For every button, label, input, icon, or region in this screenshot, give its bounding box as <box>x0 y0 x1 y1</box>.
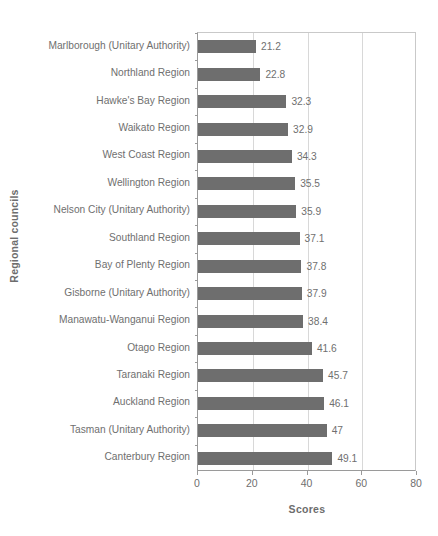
bar-value-label: 32.9 <box>293 123 313 136</box>
category-label: Auckland Region <box>113 396 190 408</box>
category-label: Otago Region <box>127 342 190 354</box>
bar-value-label: 34.3 <box>297 150 317 163</box>
y-axis-tick <box>195 60 198 61</box>
x-axis-tick-label: 60 <box>355 477 367 489</box>
category-label: Gisborne (Unitary Authority) <box>64 287 190 299</box>
category-label: Southland Region <box>109 232 190 244</box>
y-axis-tick <box>195 253 198 254</box>
category-label: Bay of Plenty Region <box>95 259 190 271</box>
plot-area: 21.222.832.332.934.335.535.937.137.837.9… <box>197 32 416 471</box>
category-label: Manawatu-Wanganui Region <box>59 314 190 326</box>
x-axis-tick <box>307 471 308 475</box>
x-axis-tick-label: 40 <box>301 477 313 489</box>
y-axis-tick <box>195 335 198 336</box>
bar[interactable] <box>198 123 288 136</box>
bar-value-label: 37.8 <box>306 260 326 273</box>
bar[interactable] <box>198 452 332 465</box>
category-label: Hawke's Bay Region <box>96 95 190 107</box>
bar[interactable] <box>198 260 301 273</box>
bar[interactable] <box>198 205 296 218</box>
bar-value-label: 32.3 <box>291 95 311 108</box>
category-label: Northland Region <box>111 67 190 79</box>
y-axis-tick <box>195 88 198 89</box>
bar[interactable] <box>198 369 323 382</box>
bar-value-label: 37.1 <box>305 232 325 245</box>
bar-value-label: 41.6 <box>317 342 337 355</box>
y-axis-tick <box>195 280 198 281</box>
category-label: Tasman (Unitary Authority) <box>70 424 190 436</box>
x-axis-ticks: 020406080 <box>197 471 417 477</box>
y-axis-tick <box>195 225 198 226</box>
category-label: Canterbury Region <box>104 451 190 463</box>
y-axis-tick <box>195 170 198 171</box>
gridline <box>362 33 363 470</box>
x-axis-title: Scores <box>197 503 417 515</box>
bar[interactable] <box>198 68 260 81</box>
bar[interactable] <box>198 40 256 53</box>
bar-value-label: 35.9 <box>301 205 321 218</box>
category-label: Marlborough (Unitary Authority) <box>48 40 190 52</box>
bar[interactable] <box>198 287 302 300</box>
category-label: Taranaki Region <box>116 369 190 381</box>
category-label: Wellington Region <box>108 177 191 189</box>
category-axis-labels: Marlborough (Unitary Authority)Northland… <box>28 32 194 471</box>
bar-value-label: 47 <box>332 424 343 437</box>
bar[interactable] <box>198 342 312 355</box>
category-label: Nelson City (Unitary Authority) <box>54 204 190 216</box>
x-axis-tick <box>361 471 362 475</box>
bar-chart: Regional councils Marlborough (Unitary A… <box>0 0 438 536</box>
bar[interactable] <box>198 397 324 410</box>
y-axis-tick <box>195 198 198 199</box>
y-axis-tick <box>195 417 198 418</box>
bar[interactable] <box>198 315 303 328</box>
bar-value-label: 37.9 <box>307 287 327 300</box>
category-label: West Coast Region <box>102 149 190 161</box>
x-axis-tick-label: 0 <box>194 477 200 489</box>
bar[interactable] <box>198 177 295 190</box>
y-axis-tick <box>195 307 198 308</box>
y-axis-tick <box>195 143 198 144</box>
x-axis-tick <box>416 471 417 475</box>
x-axis-tick <box>252 471 253 475</box>
bar[interactable] <box>198 232 300 245</box>
bar-value-label: 21.2 <box>261 40 281 53</box>
x-axis-tick-label: 20 <box>246 477 258 489</box>
bar[interactable] <box>198 424 327 437</box>
bar-value-label: 45.7 <box>328 369 348 382</box>
x-axis-tick <box>197 471 198 475</box>
y-axis-tick <box>195 33 198 34</box>
x-axis-tick-label: 80 <box>410 477 422 489</box>
y-axis-title: Regional councils <box>0 0 28 471</box>
y-axis-tick <box>195 115 198 116</box>
bar[interactable] <box>198 150 292 163</box>
bar-value-label: 35.5 <box>300 177 320 190</box>
bar-value-label: 46.1 <box>329 397 349 410</box>
y-axis-tick <box>195 362 198 363</box>
bar[interactable] <box>198 95 286 108</box>
bar-value-label: 49.1 <box>337 452 357 465</box>
bar-value-label: 22.8 <box>265 68 285 81</box>
category-label: Waikato Region <box>118 122 190 134</box>
y-axis-tick <box>195 445 198 446</box>
bar-value-label: 38.4 <box>308 315 328 328</box>
y-axis-tick <box>195 390 198 391</box>
y-axis-title-text: Regional councils <box>8 189 20 282</box>
